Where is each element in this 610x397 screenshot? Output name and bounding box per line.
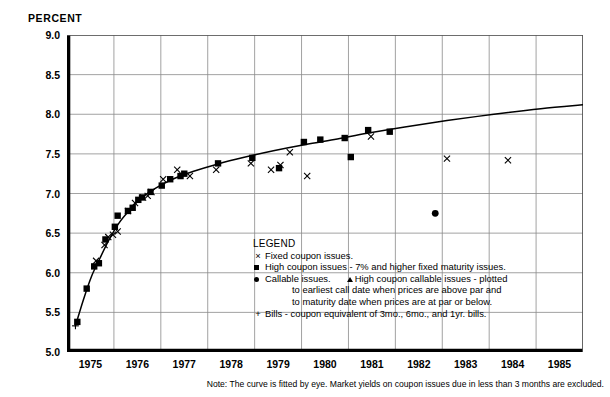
legend-circle-icon xyxy=(254,277,259,282)
y-tick-label: 8.5 xyxy=(22,69,60,81)
legend-item-continuation-2: to maturity date when prices are at par … xyxy=(252,296,507,308)
legend: LEGEND ×Fixed coupon issues.High coupon … xyxy=(252,238,507,319)
legend-triangle-icon xyxy=(347,277,353,282)
chart-stage: PERCENT 9.08.58.07.57.06.56.05.55.0 1975… xyxy=(0,0,610,397)
y-tick-label: 8.0 xyxy=(22,108,60,120)
y-tick-label: 5.0 xyxy=(22,346,60,358)
y-tick-label: 5.5 xyxy=(22,306,60,318)
y-tick-label: 6.5 xyxy=(22,227,60,239)
legend-item-label: Fixed coupon issues. xyxy=(265,250,353,261)
legend-item-label: High coupon issues - 7% and higher fixed… xyxy=(265,261,506,272)
legend-item-callable: Callable issues.High coupon callable iss… xyxy=(252,273,507,285)
legend-item-label: to maturity date when prices are at par … xyxy=(292,296,492,307)
legend-item-label: High coupon callable issues - plotted xyxy=(355,273,508,284)
legend-plus-icon: + xyxy=(253,308,263,320)
legend-item-label: Callable issues. xyxy=(265,273,331,284)
x-tick-label: 1985 xyxy=(530,358,590,370)
legend-rows: ×Fixed coupon issues.High coupon issues … xyxy=(252,250,507,320)
legend-item-label: Bills - coupon equivalent of 3mo., 6mo.,… xyxy=(265,308,486,319)
legend-item-fixed-coupon: ×Fixed coupon issues. xyxy=(252,250,507,262)
y-tick-label: 7.0 xyxy=(22,188,60,200)
legend-x-icon: × xyxy=(253,250,263,262)
legend-square-icon xyxy=(254,265,259,270)
legend-item-bills: +Bills - coupon equivalent of 3mo., 6mo.… xyxy=(252,308,507,320)
y-tick-label: 7.5 xyxy=(22,148,60,160)
y-tick-label: 9.0 xyxy=(22,29,60,41)
chart-note: Note: The curve is fitted by eye. Market… xyxy=(0,379,604,389)
legend-item-high-coupon: High coupon issues - 7% and higher fixed… xyxy=(252,261,507,273)
legend-title: LEGEND xyxy=(252,238,507,250)
legend-item-continuation-1: to earliest call date when prices are ab… xyxy=(252,284,507,296)
y-tick-label: 6.0 xyxy=(22,267,60,279)
legend-item-label: to earliest call date when prices are ab… xyxy=(292,284,502,295)
